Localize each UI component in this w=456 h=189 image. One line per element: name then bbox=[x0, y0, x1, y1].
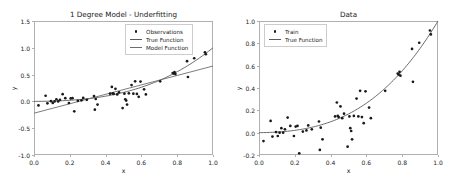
data-point bbox=[134, 80, 137, 83]
right-plot-title: Data bbox=[259, 10, 438, 19]
data-point bbox=[302, 130, 305, 133]
x-tick-mark bbox=[177, 155, 178, 157]
legend-label: True Function bbox=[146, 37, 183, 43]
x-tick-mark bbox=[366, 155, 367, 157]
data-point bbox=[112, 93, 115, 96]
x-tick-label: 0.8 bbox=[172, 159, 182, 166]
data-point bbox=[46, 102, 49, 105]
data-point bbox=[71, 97, 74, 100]
data-point bbox=[284, 128, 287, 131]
y-tick-mark bbox=[32, 48, 34, 49]
y-tick-label: 0.2 bbox=[237, 107, 255, 114]
data-point bbox=[280, 127, 283, 130]
y-tick-mark bbox=[32, 75, 34, 76]
data-point bbox=[126, 103, 129, 106]
x-tick-mark bbox=[438, 155, 439, 157]
y-tick-mark bbox=[257, 155, 259, 156]
left-x-axis-label: x bbox=[34, 167, 213, 174]
left-y-axis-label: y bbox=[10, 82, 17, 96]
data-point bbox=[289, 125, 292, 128]
data-point bbox=[132, 92, 135, 95]
x-tick-label: 0.4 bbox=[326, 159, 336, 166]
data-point bbox=[159, 80, 162, 83]
data-point bbox=[271, 135, 274, 138]
data-point bbox=[262, 140, 265, 143]
right-legend: TrainTrue Function bbox=[264, 24, 327, 47]
data-point bbox=[59, 98, 62, 101]
data-point bbox=[286, 116, 289, 119]
data-point bbox=[94, 108, 97, 111]
legend-entry: Train bbox=[268, 28, 322, 36]
line-swatch-icon bbox=[269, 39, 281, 40]
y-tick-label: 1.0 bbox=[237, 18, 255, 25]
x-tick-mark bbox=[402, 155, 403, 157]
data-point bbox=[307, 124, 310, 127]
data-point bbox=[125, 99, 128, 102]
data-point bbox=[278, 131, 281, 134]
data-point bbox=[355, 97, 358, 100]
data-point bbox=[137, 95, 140, 98]
model-function-line bbox=[34, 66, 213, 113]
right-x-axis-label: x bbox=[259, 167, 438, 174]
data-point bbox=[351, 138, 354, 141]
y-tick-label: 0.0 bbox=[237, 129, 255, 136]
legend-entry: True Function bbox=[268, 36, 322, 44]
data-point bbox=[411, 48, 414, 51]
y-tick-label: -0.5 bbox=[12, 125, 30, 132]
data-point bbox=[348, 115, 351, 118]
data-point bbox=[275, 131, 278, 134]
data-point bbox=[334, 115, 337, 118]
data-point bbox=[130, 84, 133, 87]
y-tick-label: 0.4 bbox=[237, 85, 255, 92]
line-swatch-icon bbox=[130, 39, 142, 40]
data-point bbox=[429, 29, 432, 32]
y-tick-label: 0.5 bbox=[12, 71, 30, 78]
data-point bbox=[337, 116, 340, 119]
data-point bbox=[118, 91, 121, 94]
x-tick-mark bbox=[213, 155, 214, 157]
data-point bbox=[418, 41, 421, 44]
x-tick-label: 0.0 bbox=[29, 159, 39, 166]
data-point bbox=[293, 135, 296, 138]
data-point bbox=[310, 128, 313, 131]
x-tick-label: 0.8 bbox=[397, 159, 407, 166]
line-swatch-icon bbox=[130, 47, 142, 48]
scatter-dot-icon bbox=[274, 30, 276, 32]
y-tick-label: 1.5 bbox=[12, 18, 30, 25]
data-point bbox=[136, 93, 139, 96]
data-point bbox=[350, 130, 353, 133]
data-point bbox=[123, 92, 126, 95]
y-tick-mark bbox=[257, 110, 259, 111]
matplotlib-figure: 1 Degree Model - Underfitting x y 0.00.2… bbox=[0, 0, 456, 189]
data-point bbox=[364, 90, 367, 93]
data-point bbox=[85, 98, 88, 101]
data-point bbox=[94, 98, 97, 101]
y-tick-mark bbox=[32, 155, 34, 156]
data-point bbox=[145, 93, 148, 96]
y-tick-label: 0.6 bbox=[237, 62, 255, 69]
y-tick-mark bbox=[257, 133, 259, 134]
data-point bbox=[174, 73, 177, 76]
x-tick-label: 0.0 bbox=[254, 159, 264, 166]
legend-label: Train bbox=[285, 29, 298, 35]
y-tick-label: 0.0 bbox=[12, 98, 30, 105]
data-point bbox=[37, 104, 40, 107]
y-tick-mark bbox=[32, 128, 34, 129]
data-point bbox=[204, 53, 207, 56]
legend-entry: True Function bbox=[129, 36, 188, 44]
data-point bbox=[298, 152, 301, 155]
y-tick-label: 0.8 bbox=[237, 40, 255, 47]
x-tick-mark bbox=[141, 155, 142, 157]
y-tick-label: -1.0 bbox=[12, 152, 30, 159]
data-point bbox=[276, 135, 279, 138]
x-tick-label: 1.0 bbox=[208, 159, 218, 166]
x-tick-mark bbox=[259, 155, 260, 157]
data-point bbox=[68, 102, 71, 105]
legend-label: Observations bbox=[146, 29, 183, 35]
data-point bbox=[61, 93, 64, 96]
x-tick-label: 0.2 bbox=[65, 159, 75, 166]
legend-marker-icon bbox=[129, 28, 143, 36]
legend-line-icon bbox=[129, 44, 143, 52]
x-tick-mark bbox=[34, 155, 35, 157]
y-tick-mark bbox=[257, 43, 259, 44]
